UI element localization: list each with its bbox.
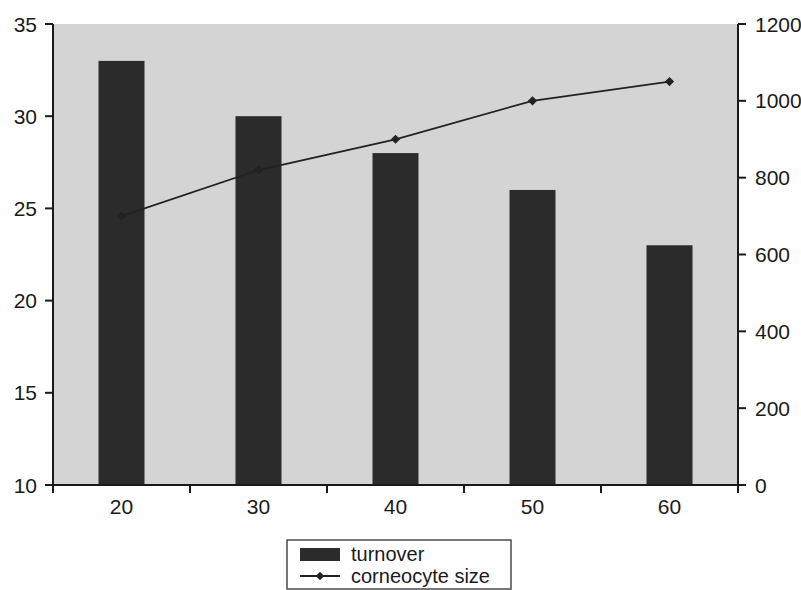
right-axis: 020040060080010001200: [738, 13, 801, 497]
x-tick-label-40: 40: [384, 495, 407, 518]
legend-label-corneocyte-size: corneocyte size: [351, 565, 490, 587]
x-tick-label-50: 50: [521, 495, 544, 518]
left-tick-label-30: 30: [14, 105, 37, 128]
legend-swatch-bar: [300, 548, 340, 561]
left-axis: 101520253035: [14, 13, 53, 497]
legend: turnovercorneocyte size: [287, 540, 511, 589]
bar-20: [99, 61, 145, 485]
chart-figure: 1015202530350200400600800100012002030405…: [0, 0, 801, 590]
bar-50: [510, 190, 556, 485]
right-tick-label-800: 800: [755, 166, 790, 189]
right-tick-label-200: 200: [755, 397, 790, 420]
left-tick-label-35: 35: [14, 13, 37, 36]
right-tick-label-1200: 1200: [755, 13, 801, 36]
left-tick-label-10: 10: [14, 474, 37, 497]
legend-label-turnover: turnover: [351, 543, 425, 565]
x-tick-label-30: 30: [247, 495, 270, 518]
right-tick-label-0: 0: [755, 474, 767, 497]
right-tick-label-600: 600: [755, 243, 790, 266]
left-tick-label-15: 15: [14, 381, 37, 404]
right-tick-label-1000: 1000: [755, 89, 801, 112]
bar-60: [647, 245, 693, 485]
x-tick-label-60: 60: [658, 495, 681, 518]
x-axis: 2030405060: [53, 485, 738, 518]
bar-40: [373, 153, 419, 485]
chart-canvas: 1015202530350200400600800100012002030405…: [0, 0, 801, 590]
right-tick-label-400: 400: [755, 320, 790, 343]
x-tick-label-20: 20: [110, 495, 133, 518]
left-tick-label-25: 25: [14, 197, 37, 220]
left-tick-label-20: 20: [14, 289, 37, 312]
